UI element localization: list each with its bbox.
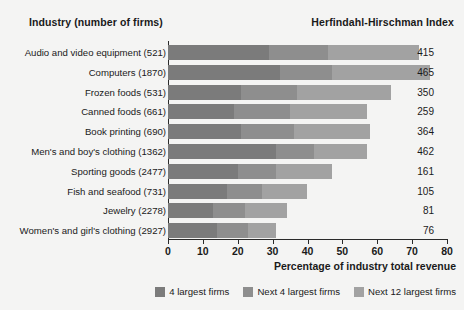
bar-segment-s1	[168, 223, 217, 238]
category-label: Fish and seafood (731)	[6, 186, 166, 197]
category-label: Book printing (690)	[6, 126, 166, 137]
bar-row	[168, 85, 391, 100]
x-tick-label: 30	[258, 245, 288, 257]
x-tick-label: 50	[327, 245, 357, 257]
bar-segment-s2	[269, 45, 328, 60]
x-tick-label: 80	[432, 245, 462, 257]
legend-label: 4 largest firms	[169, 286, 229, 297]
category-label: Sporting goods (2477)	[6, 166, 166, 177]
bar-row	[168, 164, 332, 179]
x-tick-mark	[342, 239, 343, 244]
bar-segment-s3	[294, 124, 371, 139]
hhi-value: 462	[396, 146, 434, 157]
category-label-group: Audio and video equipment (521)Computers…	[4, 41, 166, 239]
bar-row	[168, 144, 367, 159]
category-label: Canned foods (661)	[6, 106, 166, 117]
bar-segment-s2	[217, 223, 248, 238]
legend-swatch-icon	[155, 287, 165, 297]
bar-segment-s2	[213, 203, 244, 218]
x-tick-mark	[377, 239, 378, 244]
legend-item[interactable]: Next 12 largest firms	[354, 286, 456, 297]
chart-figure: Industry (number of firms) Herfindahl-Hi…	[0, 0, 464, 310]
bar-segment-s1	[168, 65, 280, 80]
x-axis-label: Percentage of industry total revenue	[0, 260, 456, 272]
category-label: Men's and boy's clothing (1362)	[6, 146, 166, 157]
x-tick-label: 10	[188, 245, 218, 257]
hhi-value: 465	[396, 67, 434, 78]
bar-segment-s1	[168, 164, 238, 179]
bar-segment-s1	[168, 144, 276, 159]
category-label: Jewelry (2278)	[6, 205, 166, 216]
bar-segment-s1	[168, 203, 213, 218]
bar-row	[168, 124, 370, 139]
bar-segment-s2	[241, 124, 293, 139]
chart-legend: 4 largest firmsNext 4 largest firmsNext …	[0, 286, 456, 297]
bar-segment-s3	[290, 104, 367, 119]
bar-segment-s2	[234, 104, 290, 119]
bar-segment-s1	[168, 104, 234, 119]
bar-segment-s3	[262, 184, 307, 199]
hhi-value: 105	[396, 186, 434, 197]
industry-column-header: Industry (number of firms)	[29, 16, 163, 28]
x-tick-label: 0	[153, 245, 183, 257]
bar-segment-s3	[297, 85, 391, 100]
category-label: Women's and girl's clothing (2927)	[6, 225, 166, 236]
x-tick-mark	[203, 239, 204, 244]
bar-segment-s3	[245, 203, 287, 218]
bar-segment-s1	[168, 184, 227, 199]
category-label: Audio and video equipment (521)	[6, 47, 166, 58]
bar-segment-s3	[314, 144, 366, 159]
hhi-value: 415	[396, 47, 434, 58]
x-tick-label: 60	[362, 245, 392, 257]
bar-segment-s2	[227, 184, 262, 199]
hhi-value: 76	[396, 225, 434, 236]
x-tick-mark	[308, 239, 309, 244]
bar-row	[168, 184, 307, 199]
bar-segment-s3	[248, 223, 276, 238]
hhi-value: 350	[396, 87, 434, 98]
bar-row	[168, 104, 367, 119]
bar-segment-s1	[168, 124, 241, 139]
hhi-column-header: Herfindahl-Hirschman Index	[311, 16, 454, 28]
bar-segment-s2	[280, 65, 332, 80]
legend-swatch-icon	[354, 287, 364, 297]
bar-segment-s1	[168, 45, 269, 60]
x-tick-mark	[447, 239, 448, 244]
x-tick-label: 40	[293, 245, 323, 257]
bar-row	[168, 45, 419, 60]
x-tick-mark	[273, 239, 274, 244]
x-tick-label: 20	[223, 245, 253, 257]
bar-segment-s2	[238, 164, 276, 179]
legend-label: Next 4 largest firms	[257, 286, 340, 297]
bar-segment-s2	[276, 144, 314, 159]
bar-segment-s1	[168, 85, 241, 100]
x-tick-mark	[238, 239, 239, 244]
bar-segment-s2	[241, 85, 297, 100]
legend-swatch-icon	[243, 287, 253, 297]
legend-item[interactable]: 4 largest firms	[155, 286, 229, 297]
hhi-value: 364	[396, 126, 434, 137]
bar-row	[168, 65, 430, 80]
legend-item[interactable]: Next 4 largest firms	[243, 286, 340, 297]
bar-row	[168, 203, 287, 218]
x-tick-label: 70	[397, 245, 427, 257]
x-tick-mark	[168, 239, 169, 244]
x-tick-mark	[412, 239, 413, 244]
category-label: Computers (1870)	[6, 67, 166, 78]
hhi-value: 81	[396, 205, 434, 216]
hhi-value-group: 4154653502593644621611058176	[396, 41, 458, 239]
bar-segment-s3	[276, 164, 332, 179]
bar-row	[168, 223, 276, 238]
hhi-value: 259	[396, 106, 434, 117]
hhi-value: 161	[396, 166, 434, 177]
category-label: Frozen foods (531)	[6, 87, 166, 98]
legend-label: Next 12 largest firms	[368, 286, 456, 297]
